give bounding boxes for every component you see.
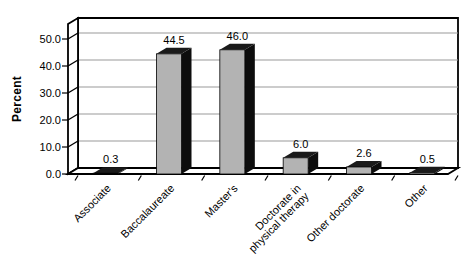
bar-side [245, 44, 255, 174]
y-tick-label: 10.0 [40, 141, 61, 153]
x-category-label: Other doctorate [304, 182, 367, 245]
bar-value-label: 6.0 [293, 138, 308, 150]
bar-value-label: 0.3 [103, 153, 118, 165]
bar-side [182, 48, 192, 174]
bar [347, 167, 372, 174]
y-tick-label: 20.0 [40, 114, 61, 126]
bar-value-label: 0.5 [420, 153, 435, 165]
y-tick-label: 0.0 [46, 168, 61, 180]
y-tick-label: 40.0 [40, 60, 61, 72]
bar [220, 50, 245, 174]
x-category-label: Other [402, 182, 430, 210]
x-tick [328, 176, 331, 181]
x-category-label: Master's [202, 182, 240, 220]
x-category-label: Associate [71, 182, 113, 224]
x-category-label: Baccalaureate [118, 182, 176, 240]
y-tick-label: 50.0 [40, 33, 61, 45]
chart-canvas: 0.344.546.06.02.60.50.010.020.030.040.05… [0, 0, 466, 255]
x-tick [265, 176, 268, 181]
bar-value-label: 46.0 [227, 30, 248, 42]
left-wall [68, 18, 78, 174]
bar [410, 173, 435, 174]
bar [93, 173, 118, 174]
x-tick [202, 176, 205, 181]
x-category-label: Doctorate inphysical therapy [238, 182, 311, 255]
x-tick [455, 176, 458, 181]
x-tick [392, 176, 395, 181]
y-tick-label: 30.0 [40, 87, 61, 99]
bar-chart: Percent 0.344.546.06.02.60.50.010.020.03… [0, 0, 466, 255]
back-wall [78, 18, 458, 168]
bar-value-label: 44.5 [163, 34, 184, 46]
bar [157, 54, 182, 174]
x-tick [138, 176, 141, 181]
bar [283, 158, 308, 174]
bar-value-label: 2.6 [356, 147, 371, 159]
x-tick [75, 176, 78, 181]
